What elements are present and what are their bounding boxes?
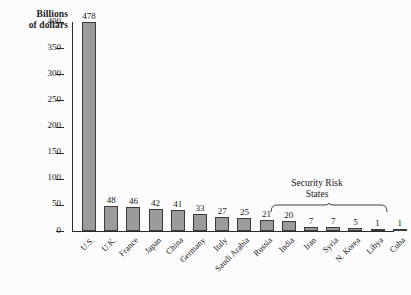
bar-group[interactable]: 27: [215, 22, 229, 231]
y-axis-tick: 350: [64, 48, 72, 49]
bar-value-label: 7: [331, 216, 336, 226]
bar-value-label: 41: [173, 199, 182, 209]
bar-group[interactable]: 25: [237, 22, 251, 231]
y-axis-tick: 50: [64, 205, 72, 206]
y-axis-tick-label: 150: [48, 146, 62, 156]
y-axis-tick-label: 0: [57, 225, 62, 235]
annotation-brace-icon: [270, 203, 388, 213]
bar[interactable]: [171, 210, 185, 231]
bar-group[interactable]: 1: [371, 22, 385, 231]
bar-value-label: 27: [218, 206, 227, 216]
y-axis-tick: 150: [64, 153, 72, 154]
bar-group[interactable]: 46: [126, 22, 140, 231]
security-risk-annotation: Security Risk States: [262, 178, 372, 200]
bar[interactable]: [104, 206, 118, 231]
bar-value-label: 48: [107, 195, 116, 205]
y-axis-line: [72, 22, 73, 232]
bar-value-label: 42: [151, 198, 160, 208]
y-axis-tick-label: 200: [48, 120, 62, 130]
bar-value-label: 478: [82, 11, 96, 21]
bar-value-label: 1: [398, 218, 403, 228]
y-axis-tick-label: 300: [48, 68, 62, 78]
y-axis-tick: 200: [64, 127, 72, 128]
bar-group[interactable]: 33: [193, 22, 207, 231]
bar[interactable]: [82, 22, 96, 231]
annotation-line2: States: [262, 189, 372, 200]
bar-value-label: 1: [375, 218, 380, 228]
bar-group[interactable]: 1: [393, 22, 407, 231]
y-axis-tick: 0: [64, 231, 72, 232]
y-axis-tick: 250: [64, 100, 72, 101]
bar-value-label: 33: [196, 203, 205, 213]
bar-value-label: 7: [309, 216, 314, 226]
y-axis-tick-label: 250: [48, 94, 62, 104]
y-axis-tick: 300: [64, 74, 72, 75]
y-axis-tick-label: 400: [48, 16, 62, 26]
y-axis-tick-label: 50: [52, 198, 61, 208]
bar-value-label: 5: [353, 217, 358, 227]
y-axis-tick-label: 100: [48, 172, 62, 182]
bar-group[interactable]: 42: [149, 22, 163, 231]
y-axis-tick: 400: [64, 22, 72, 23]
bar-group[interactable]: 41: [171, 22, 185, 231]
y-axis-tick-label: 350: [48, 42, 62, 52]
annotation-line1: Security Risk: [262, 178, 372, 189]
y-axis-tick: 100: [64, 179, 72, 180]
bar-value-label: 25: [240, 207, 249, 217]
bar-value-label: 46: [129, 196, 138, 206]
bar-group[interactable]: 478: [82, 22, 96, 231]
bar[interactable]: [126, 207, 140, 231]
bar[interactable]: [149, 209, 163, 231]
bar-group[interactable]: 48: [104, 22, 118, 231]
plot-area: 050100150200250300350400 478U.S.48U.K.46…: [72, 22, 394, 232]
